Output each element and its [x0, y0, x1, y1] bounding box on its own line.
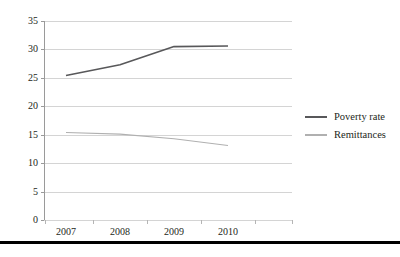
y-tick-mark [41, 78, 44, 79]
y-tick-mark [41, 106, 44, 107]
y-tick-mark [41, 220, 44, 221]
legend-swatch-icon [305, 134, 327, 135]
y-tick-mark [41, 163, 44, 164]
series-line [66, 46, 228, 76]
legend-item: Poverty rate [305, 108, 400, 126]
legend-label: Remittances [334, 129, 386, 141]
legend-item: Remittances [305, 126, 400, 144]
y-tick-mark [41, 192, 44, 193]
bottom-rule [0, 241, 400, 244]
y-tick-mark [41, 21, 44, 22]
series-line [66, 132, 228, 145]
y-tick-mark [41, 135, 44, 136]
chart-figure: 05101520253035 2007200820092010 Poverty … [0, 0, 400, 257]
legend-label: Poverty rate [334, 111, 385, 123]
chart-legend: Poverty rateRemittances [305, 108, 400, 144]
y-tick-mark [41, 49, 44, 50]
legend-swatch-icon [305, 116, 327, 118]
